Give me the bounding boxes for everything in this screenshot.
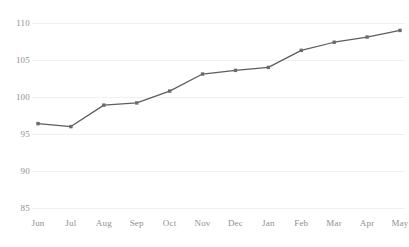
y-tick-label: 110 [4, 18, 30, 28]
x-tick-label: Jan [251, 218, 285, 228]
y-tick-label: 95 [4, 129, 30, 139]
data-point-marker [267, 66, 270, 69]
data-point-marker [69, 125, 72, 128]
x-tick-label: Feb [284, 218, 318, 228]
y-tick-label: 85 [4, 203, 30, 213]
line-chart: 859095100105110 JunJulAugSepOctNovDecJan… [0, 0, 409, 247]
data-point-marker [168, 89, 171, 92]
x-tick-label: Oct [153, 218, 187, 228]
y-tick-label: 105 [4, 55, 30, 65]
data-point-marker [135, 101, 138, 104]
data-point-marker [36, 122, 39, 125]
data-point-marker [201, 72, 204, 75]
y-tick-label: 90 [4, 166, 30, 176]
data-point-marker [365, 35, 368, 38]
data-point-marker [398, 29, 401, 32]
x-tick-label: Dec [218, 218, 252, 228]
chart-plot-area [0, 0, 409, 247]
x-tick-label: Aug [87, 218, 121, 228]
x-tick-label: Apr [350, 218, 384, 228]
x-tick-label: Jul [54, 218, 88, 228]
x-tick-label: Jun [21, 218, 55, 228]
data-point-marker [300, 49, 303, 52]
x-tick-label: May [383, 218, 409, 228]
x-tick-label: Nov [186, 218, 220, 228]
x-tick-label: Sep [120, 218, 154, 228]
data-point-marker [102, 103, 105, 106]
y-tick-label: 100 [4, 92, 30, 102]
data-line [38, 30, 400, 126]
data-point-marker [234, 69, 237, 72]
x-tick-label: Mar [317, 218, 351, 228]
data-point-marker [332, 41, 335, 44]
